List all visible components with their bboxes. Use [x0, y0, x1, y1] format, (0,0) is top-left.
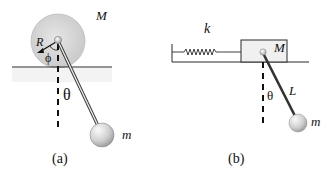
ground-shadow-a [12, 68, 112, 82]
label-bob-mass-a: m [122, 127, 131, 142]
panel-b: k M L θ m (b) [172, 21, 320, 167]
pivot-b [260, 49, 266, 55]
label-length: L [288, 83, 296, 98]
physics-diagram: M R ϕ θ m (a) k M L θ m (b) [0, 0, 335, 177]
label-theta-b: θ [267, 88, 273, 103]
label-block-mass: M [273, 40, 286, 55]
pivot-a [54, 36, 61, 43]
label-disk-mass: M [95, 8, 108, 23]
label-theta-a: θ [63, 86, 71, 103]
caption-b: (b) [228, 151, 245, 167]
label-spring-constant: k [204, 21, 211, 36]
panel-a: M R ϕ θ m (a) [12, 8, 131, 167]
label-phi: ϕ [45, 51, 51, 65]
caption-a: (a) [52, 151, 68, 167]
label-radius: R [35, 35, 44, 49]
pendulum-bob-a [90, 123, 114, 147]
label-bob-mass-b: m [311, 114, 320, 129]
pendulum-bob-b [289, 114, 307, 132]
spring [172, 49, 241, 55]
